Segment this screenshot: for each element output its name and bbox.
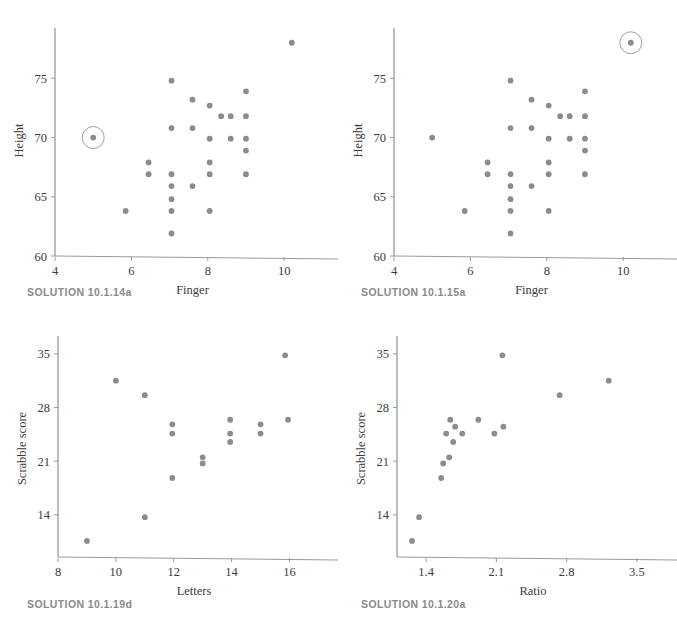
data-point (207, 171, 213, 177)
data-point (582, 113, 588, 119)
data-point (508, 171, 514, 177)
data-point (546, 208, 552, 214)
x-tick-label: 3.5 (629, 565, 645, 579)
data-point (243, 136, 249, 142)
data-point (142, 514, 148, 520)
x-axis-label: Finger (515, 283, 548, 297)
panel-solution-10-1-15a: 4681060657075FingerHeight SOLUTION 10.1.… (339, 0, 677, 312)
data-point (169, 78, 175, 84)
x-tick-label: 4 (391, 264, 398, 278)
y-tick-label: 35 (38, 347, 51, 361)
x-axis-line (394, 256, 677, 259)
y-tick-label: 35 (377, 347, 390, 361)
panel-caption: SOLUTION 10.1.20a (361, 598, 466, 610)
data-point (113, 378, 119, 384)
x-tick-label: 10 (617, 264, 630, 278)
data-point (90, 135, 96, 141)
data-point (567, 113, 573, 119)
y-tick-label: 65 (374, 190, 387, 204)
x-tick-label: 8 (55, 565, 61, 579)
x-tick-label: 10 (278, 264, 291, 278)
plot-canvas: 4681060657075FingerHeight (0, 0, 338, 312)
y-tick-label: 60 (374, 250, 387, 264)
data-point (227, 417, 233, 423)
y-axis-label: Scrabble score (15, 411, 29, 485)
data-point (546, 103, 552, 109)
data-point (582, 148, 588, 154)
y-tick-label: 21 (377, 455, 390, 469)
data-point (207, 208, 213, 214)
data-point (508, 196, 514, 202)
x-axis-line (397, 557, 677, 560)
data-point (207, 103, 213, 109)
data-point (447, 417, 453, 423)
data-point (508, 125, 514, 131)
data-point (440, 461, 446, 467)
y-tick-label: 70 (35, 131, 48, 145)
data-point (409, 538, 415, 544)
data-point (207, 136, 213, 142)
panel-caption: SOLUTION 10.1.15a (361, 286, 466, 298)
panel-solution-10-1-14a: 4681060657075FingerHeight SOLUTION 10.1.… (0, 0, 338, 312)
data-point (557, 113, 563, 119)
data-point (169, 125, 175, 131)
x-axis-label: Ratio (519, 584, 546, 598)
data-point (452, 424, 458, 430)
data-point (529, 183, 535, 189)
x-tick-label: 2.8 (559, 565, 575, 579)
y-tick-label: 75 (35, 72, 48, 86)
data-point (142, 392, 148, 398)
data-point (200, 454, 206, 460)
data-point (243, 171, 249, 177)
data-point (169, 431, 175, 437)
panel-solution-10-1-19d: 81012141614212835LettersScrabble score S… (0, 312, 338, 624)
data-point (190, 183, 196, 189)
x-tick-label: 1.4 (418, 565, 434, 579)
data-point (475, 417, 481, 423)
data-point (508, 78, 514, 84)
y-tick-label: 14 (377, 508, 390, 522)
data-point (169, 196, 175, 202)
x-tick-label: 8 (544, 264, 550, 278)
y-tick-label: 65 (35, 190, 48, 204)
data-point (190, 97, 196, 103)
data-point (450, 439, 456, 445)
data-point (499, 352, 505, 358)
data-point (557, 392, 563, 398)
data-point (508, 208, 514, 214)
data-point (169, 475, 175, 481)
data-point (567, 136, 573, 142)
data-point (200, 461, 206, 467)
data-point (606, 378, 612, 384)
panel-caption: SOLUTION 10.1.19d (27, 598, 132, 610)
data-point (582, 88, 588, 94)
data-point (169, 171, 175, 177)
data-point (190, 125, 196, 131)
data-point (258, 431, 264, 437)
y-tick-label: 14 (38, 508, 51, 522)
data-point (546, 136, 552, 142)
data-point (258, 421, 264, 427)
data-point (508, 231, 514, 237)
data-point (508, 183, 514, 189)
data-point (443, 431, 449, 437)
data-point (169, 231, 175, 237)
data-point (84, 538, 90, 544)
data-point (169, 208, 175, 214)
data-point (243, 113, 249, 119)
data-point (227, 431, 233, 437)
data-point (416, 514, 422, 520)
y-axis-label: Height (12, 123, 26, 158)
x-tick-label: 8 (205, 264, 211, 278)
data-point (169, 421, 175, 427)
y-axis-label: Height (351, 123, 365, 158)
y-tick-label: 70 (374, 131, 387, 145)
x-tick-label: 10 (110, 565, 123, 579)
y-tick-label: 21 (38, 455, 51, 469)
x-axis-label: Finger (176, 283, 209, 297)
x-tick-label: 6 (467, 264, 473, 278)
plot-canvas: 1.42.12.83.514212835RatioScrabble score (339, 312, 677, 624)
data-point (529, 125, 535, 131)
data-point (546, 171, 552, 177)
y-tick-label: 28 (377, 401, 390, 415)
